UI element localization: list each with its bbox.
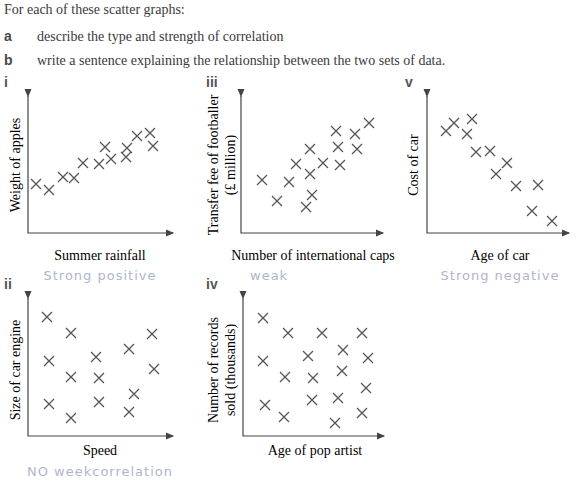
cross-marker-icon	[547, 216, 557, 226]
cross-marker-icon	[527, 206, 537, 216]
y-axis-label: Transfer fee of footballer	[206, 94, 221, 235]
handwritten-answer: Strong negative	[441, 268, 560, 283]
cross-marker-icon	[132, 131, 142, 141]
cross-marker-icon	[533, 180, 543, 190]
cross-marker-icon	[333, 393, 343, 403]
x-axis-label: Speed	[83, 443, 117, 458]
cross-marker-icon	[258, 313, 268, 323]
cross-marker-icon	[491, 169, 501, 179]
axes	[28, 96, 569, 436]
cross-marker-icon	[44, 185, 54, 195]
cross-marker-icon	[44, 399, 54, 409]
cross-marker-icon	[129, 389, 139, 399]
cross-marker-icon	[66, 328, 76, 338]
cross-marker-icon	[260, 400, 270, 410]
cross-marker-icon	[100, 142, 110, 152]
cross-marker-icon	[357, 328, 367, 338]
y-axis-label: Weight of apples	[8, 118, 23, 213]
x-axis-label: Age of pop artist	[268, 443, 363, 458]
cross-marker-icon	[284, 177, 294, 187]
cross-marker-icon	[364, 118, 374, 128]
cross-marker-icon	[449, 118, 459, 128]
cross-marker-icon	[350, 129, 360, 139]
cross-marker-icon	[66, 413, 76, 423]
cross-marker-icon	[303, 351, 313, 361]
cross-marker-icon	[357, 408, 367, 418]
cross-marker-icon	[363, 353, 373, 363]
cross-marker-icon	[333, 142, 343, 152]
handwritten-answer: Strong positive	[44, 268, 157, 283]
cross-marker-icon	[337, 366, 347, 376]
cross-marker-icon	[283, 328, 293, 338]
y-axis-label-units: sold (thousands)	[223, 324, 239, 417]
cross-marker-icon	[361, 383, 371, 393]
cross-marker-icon	[318, 158, 328, 168]
y-axis-label: Size of car engine	[8, 320, 23, 421]
cross-marker-icon	[467, 114, 477, 124]
cross-marker-icon	[148, 141, 158, 151]
cross-marker-icon	[94, 373, 104, 383]
cross-marker-icon	[305, 169, 315, 179]
cross-marker-icon	[272, 196, 282, 206]
cross-marker-icon	[511, 181, 521, 191]
cross-marker-icon	[78, 158, 88, 168]
cross-marker-icon	[94, 397, 104, 407]
cross-marker-icon	[317, 328, 327, 338]
cross-marker-icon	[69, 173, 79, 183]
cross-marker-icon	[91, 352, 101, 362]
cross-marker-icon	[280, 372, 290, 382]
cross-marker-icon	[307, 395, 317, 405]
cross-marker-icon	[462, 129, 472, 139]
y-axis-label-units: (£ million)	[223, 135, 239, 196]
cross-marker-icon	[258, 356, 268, 366]
cross-marker-icon	[106, 154, 116, 164]
cross-marker-icon	[291, 159, 301, 169]
cross-marker-icon	[471, 147, 481, 157]
cross-marker-icon	[308, 373, 318, 383]
x-axis-label: Number of international caps	[231, 248, 395, 263]
cross-marker-icon	[502, 158, 512, 168]
handwritten-answer: weak	[250, 268, 288, 283]
cross-marker-icon	[305, 144, 315, 154]
y-axis-label: Number of records	[206, 317, 221, 423]
cross-marker-icon	[124, 407, 134, 417]
cross-marker-icon	[301, 202, 311, 212]
x-axis-label: Age of car	[470, 248, 529, 263]
cross-marker-icon	[122, 143, 132, 153]
cross-marker-icon	[307, 190, 317, 200]
cross-marker-icon	[42, 312, 52, 322]
scatter-graphs: Summer rainfall Weight of apples Strong …	[0, 0, 586, 484]
cross-marker-icon	[331, 126, 341, 136]
cross-marker-icon	[485, 146, 495, 156]
handwritten-answer: NO weekcorrelation	[27, 464, 173, 479]
cross-marker-icon	[147, 329, 157, 339]
y-axis-label: Cost of car	[406, 134, 421, 196]
cross-marker-icon	[124, 344, 134, 354]
cross-marker-icon	[335, 160, 345, 170]
cross-marker-icon	[121, 152, 131, 162]
cross-marker-icon	[330, 418, 340, 428]
cross-marker-icon	[279, 412, 289, 422]
cross-marker-icon	[145, 128, 155, 138]
cross-marker-icon	[58, 172, 68, 182]
cross-marker-icon	[257, 175, 267, 185]
cross-marker-icon	[44, 356, 54, 366]
cross-marker-icon	[149, 364, 159, 374]
cross-marker-icon	[31, 179, 41, 189]
x-axis-label: Summer rainfall	[54, 248, 145, 263]
cross-marker-icon	[352, 144, 362, 154]
cross-marker-icon	[94, 159, 104, 169]
cross-marker-icon	[66, 372, 76, 382]
cross-marker-icon	[338, 345, 348, 355]
